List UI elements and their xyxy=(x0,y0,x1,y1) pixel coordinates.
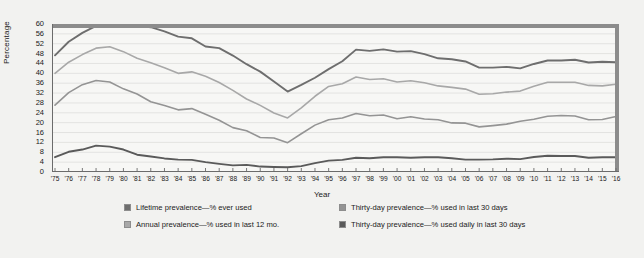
x-tick-label: '79 xyxy=(105,176,114,183)
line-chart-svg xyxy=(52,24,619,172)
chart-legend: Lifetime prevalence—% ever usedThirty-da… xyxy=(124,204,584,228)
x-tick-label: '75 xyxy=(51,176,60,183)
x-tick-label: '95 xyxy=(324,176,333,183)
y-tick-label: 40 xyxy=(36,70,44,78)
x-tick-label: '96 xyxy=(338,176,347,183)
plot-background xyxy=(52,24,619,172)
x-tick-label: '80 xyxy=(119,176,128,183)
x-tick-label: '88 xyxy=(229,176,238,183)
x-tick-label: '91 xyxy=(270,176,279,183)
x-tick-label: '03 xyxy=(434,176,443,183)
x-tick-label: '13 xyxy=(571,176,580,183)
legend-label: Thirty-day prevalence—% used daily in la… xyxy=(351,221,525,229)
x-tick-label: '78 xyxy=(92,176,101,183)
x-tick-label: '86 xyxy=(201,176,210,183)
y-tick-label: 0 xyxy=(40,168,44,176)
x-tick-label: '87 xyxy=(215,176,224,183)
x-axis-title: Year xyxy=(0,190,644,199)
x-tick-label: '77 xyxy=(78,176,87,183)
x-tick-label: '76 xyxy=(64,176,73,183)
x-tick-label: '11 xyxy=(544,176,552,183)
y-tick-label: 28 xyxy=(36,99,44,107)
legend-entry[interactable]: Thirty-day prevalence—% used in last 30 … xyxy=(339,204,584,212)
y-tick-label: 48 xyxy=(36,50,44,58)
x-tick-label: '16 xyxy=(612,176,621,183)
y-tick-label: 20 xyxy=(36,119,44,127)
x-tick-label: '82 xyxy=(146,176,155,183)
y-tick-label: 32 xyxy=(36,89,44,97)
y-tick-label: 36 xyxy=(36,79,44,87)
x-tick-label: '94 xyxy=(311,176,320,183)
y-tick-label: 60 xyxy=(36,20,44,28)
x-tick-label: '99 xyxy=(379,176,388,183)
y-tick-label: 24 xyxy=(36,109,44,117)
x-tick-label: '04 xyxy=(448,176,457,183)
legend-label: Lifetime prevalence—% ever used xyxy=(136,204,252,212)
x-tick-label: '09 xyxy=(516,176,525,183)
x-tick-label: '01 xyxy=(406,176,415,183)
y-tick-label: 4 xyxy=(40,158,44,166)
y-tick-label: 52 xyxy=(36,40,44,48)
legend-entry[interactable]: Lifetime prevalence—% ever used xyxy=(124,204,339,212)
legend-label: Annual prevalence—% used in last 12 mo. xyxy=(136,221,279,229)
x-tick-label: '00 xyxy=(393,176,402,183)
y-tick-label: 8 xyxy=(40,149,44,157)
y-tick-label: 12 xyxy=(36,139,44,147)
legend-swatch-icon xyxy=(124,221,131,228)
x-tick-label: '93 xyxy=(297,176,306,183)
x-tick-label: '15 xyxy=(598,176,607,183)
x-tick-label: '02 xyxy=(420,176,429,183)
x-tick-label: '10 xyxy=(530,176,539,183)
x-tick-label: '83 xyxy=(160,176,169,183)
legend-swatch-icon xyxy=(339,204,346,211)
legend-swatch-icon xyxy=(339,221,346,228)
x-tick-label: '98 xyxy=(365,176,374,183)
x-tick-label: '05 xyxy=(461,176,470,183)
x-axis-tick-labels: '75'76'77'78'79'80'81'82'83'84'85'86'87'… xyxy=(52,176,619,190)
y-tick-label: 16 xyxy=(36,129,44,137)
x-tick-label: '14 xyxy=(584,176,593,183)
x-tick-label: '08 xyxy=(502,176,511,183)
legend-swatch-icon xyxy=(124,204,131,211)
legend-entry[interactable]: Annual prevalence—% used in last 12 mo. xyxy=(124,221,339,229)
chart-figure: Percentage 60565248444036322824201612840… xyxy=(0,0,644,258)
y-axis-tick-labels: 60565248444036322824201612840 xyxy=(0,24,50,172)
x-tick-label: '84 xyxy=(174,176,183,183)
x-tick-label: '90 xyxy=(256,176,265,183)
x-tick-label: '81 xyxy=(133,176,142,183)
legend-entry[interactable]: Thirty-day prevalence—% used daily in la… xyxy=(339,221,584,229)
y-tick-label: 44 xyxy=(36,60,44,68)
legend-label: Thirty-day prevalence—% used in last 30 … xyxy=(351,204,508,212)
x-tick-label: '97 xyxy=(352,176,361,183)
plot-area xyxy=(52,24,619,172)
x-tick-label: '12 xyxy=(557,176,566,183)
x-tick-label: '89 xyxy=(242,176,251,183)
x-tick-label: '92 xyxy=(283,176,292,183)
x-tick-label: '07 xyxy=(489,176,498,183)
x-tick-label: '85 xyxy=(188,176,197,183)
y-tick-label: 56 xyxy=(36,30,44,38)
x-tick-label: '06 xyxy=(475,176,484,183)
